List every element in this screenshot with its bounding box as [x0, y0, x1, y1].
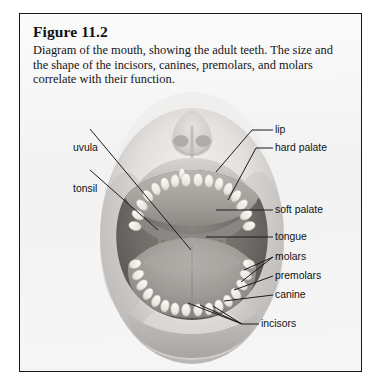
callout-label-tonsil: tonsil — [73, 183, 97, 194]
figure-title: Figure 11.2 — [33, 23, 333, 41]
callout-label-uvula: uvula — [73, 142, 98, 153]
callout-label-incisors: incisors — [261, 318, 296, 329]
figure-panel: Figure 11.2 Diagram of the mouth, showin… — [19, 13, 362, 372]
callout-label-premolars: premolars — [275, 270, 321, 281]
figure-caption-block: Figure 11.2 Diagram of the mouth, showin… — [33, 23, 333, 87]
callout-label-tongue: tongue — [275, 231, 307, 242]
callout-label-molars: molars — [275, 251, 306, 262]
callout-label-hard-palate: hard palate — [275, 142, 327, 153]
callout-label-lip: lip — [275, 124, 285, 135]
callout-label-soft-palate: soft palate — [275, 204, 323, 215]
figure-caption-text: Diagram of the mouth, showing the adult … — [33, 43, 333, 87]
callout-label-canine: canine — [275, 289, 306, 300]
